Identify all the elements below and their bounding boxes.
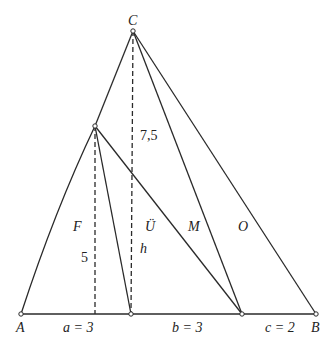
label-C: C <box>128 13 138 28</box>
point-A <box>19 312 23 316</box>
point-B <box>314 312 318 316</box>
label-c: c = 2 <box>265 320 295 335</box>
label-region-U: Ü <box>145 218 156 234</box>
label-h: h <box>140 241 147 256</box>
geometry-figure: C A B F Ü M O 7,5 5 h a = 3 b = 3 c = 2 <box>0 0 334 340</box>
label-height-P: 5 <box>81 250 88 265</box>
label-A: A <box>15 320 25 335</box>
label-region-F: F <box>72 219 82 234</box>
side-A-P <box>21 126 95 314</box>
segment-C-E <box>133 31 242 314</box>
point-E <box>240 312 244 316</box>
segment-P-E <box>95 126 242 314</box>
label-B: B <box>311 320 320 335</box>
point-C <box>131 29 135 33</box>
label-height-C: 7,5 <box>140 128 158 143</box>
side-P-C <box>95 31 133 126</box>
label-region-M: M <box>187 219 201 234</box>
segment-P-D <box>95 126 131 314</box>
point-D <box>129 312 133 316</box>
label-region-O: O <box>238 219 248 234</box>
side-C-B <box>133 31 316 314</box>
point-P <box>93 124 97 128</box>
label-b: b = 3 <box>172 320 202 335</box>
label-a: a = 3 <box>63 320 93 335</box>
